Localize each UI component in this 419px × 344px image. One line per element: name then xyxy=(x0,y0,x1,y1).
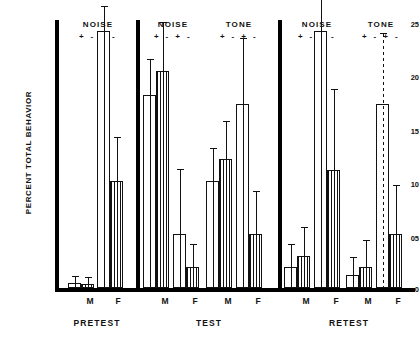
error-bar-cap xyxy=(190,244,197,245)
x-axis-line xyxy=(55,288,415,292)
sex-label-test-tone-f: F xyxy=(248,296,268,306)
error-bar-cap xyxy=(223,121,230,122)
error-bar xyxy=(396,186,397,288)
error-bar-cap xyxy=(177,169,184,170)
sex-label-pretest-noise-f: F xyxy=(108,296,128,306)
error-bar-cap xyxy=(85,277,92,278)
error-bar xyxy=(163,23,164,288)
error-bar xyxy=(226,122,227,288)
error-bar xyxy=(321,0,322,288)
figure-canvas: PERCENT TOTAL BEHAVIOR 25 20 15 10 05 0 … xyxy=(0,0,419,344)
error-bar-cap xyxy=(350,257,357,258)
error-bar-cap xyxy=(160,22,167,23)
sex-label-test-noise-m: M xyxy=(155,296,175,306)
sex-label-retest-noise-f: F xyxy=(326,296,346,306)
phase-label-pretest: PRETEST xyxy=(58,318,136,328)
error-bar xyxy=(366,241,367,288)
sex-label-test-noise-f: F xyxy=(185,296,205,306)
error-bar-cap xyxy=(331,89,338,90)
error-bar xyxy=(353,258,354,288)
error-bar-cap xyxy=(114,137,121,138)
error-bar-cap xyxy=(101,6,108,7)
error-bar-cap xyxy=(240,38,247,39)
plot-area xyxy=(59,20,415,288)
error-bar xyxy=(291,245,292,288)
sex-label-retest-tone-m: M xyxy=(358,296,378,306)
error-bar-cap xyxy=(288,244,295,245)
error-bar xyxy=(383,34,384,288)
error-bar-cap xyxy=(301,227,308,228)
sex-label-test-tone-m: M xyxy=(218,296,238,306)
error-bar xyxy=(104,7,105,288)
error-bar-cap xyxy=(253,191,260,192)
error-bar xyxy=(180,170,181,288)
error-bar-cap xyxy=(72,276,79,277)
error-bar xyxy=(150,60,151,288)
error-bar-cap xyxy=(380,33,387,34)
sex-label-retest-tone-f: F xyxy=(388,296,408,306)
error-bar xyxy=(117,138,118,288)
phase-label-retest: RETEST xyxy=(282,318,416,328)
error-bar xyxy=(334,90,335,288)
y-axis-label: PERCENT TOTAL BEHAVIOR xyxy=(24,73,33,233)
sex-label-pretest-noise-m: M xyxy=(80,296,100,306)
error-bar-cap xyxy=(363,240,370,241)
error-bar xyxy=(88,278,89,288)
sex-label-retest-noise-m: M xyxy=(296,296,316,306)
error-bar xyxy=(75,277,76,288)
error-bar xyxy=(213,149,214,288)
error-bar xyxy=(256,192,257,288)
error-bar-cap xyxy=(147,59,154,60)
phase-label-test: TEST xyxy=(140,318,278,328)
error-bar-cap xyxy=(393,185,400,186)
error-bar xyxy=(304,228,305,288)
error-bar-cap xyxy=(210,148,217,149)
error-bar xyxy=(243,39,244,288)
error-bar xyxy=(193,245,194,288)
